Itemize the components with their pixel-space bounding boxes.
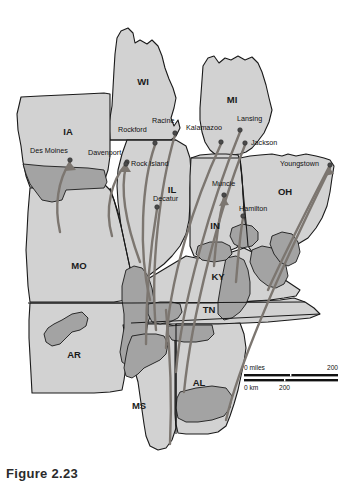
state-label-mo: MO <box>71 260 86 271</box>
city-label-rock-island: Rock Island <box>131 159 169 168</box>
state-label-in: IN <box>210 220 220 231</box>
city-label-rockford: Rockford <box>118 125 147 134</box>
city-dot-rockford <box>153 141 158 146</box>
city-dot-racine <box>173 131 178 136</box>
city-dot-rock-island <box>124 162 129 167</box>
city-dot-decatur <box>155 205 160 210</box>
state-label-al: AL <box>193 377 206 388</box>
city-dot-kalamazoo <box>219 140 224 145</box>
state-label-ky: KY <box>211 271 225 282</box>
city-label-hamilton: Hamilton <box>239 204 267 213</box>
city-label-racine: Racine <box>152 116 174 125</box>
city-dot-youngstown <box>328 163 333 168</box>
state-label-tn: TN <box>203 304 216 315</box>
city-dot-muncie <box>222 193 227 198</box>
city-dot-des-moines <box>68 158 73 163</box>
city-label-youngstown: Youngstown <box>280 159 319 168</box>
city-dot-lansing <box>238 128 243 133</box>
city-label-lansing: Lansing <box>237 114 262 123</box>
migration-flow-map-figure: Des MoinesDavenportRock IslandRockfordRa… <box>0 0 345 481</box>
city-dot-jackson <box>243 141 248 146</box>
state-label-il: IL <box>168 184 177 195</box>
city-label-jackson: Jackson <box>251 138 277 147</box>
scale-bar-km-max: 200 <box>279 384 290 391</box>
map-svg: Des MoinesDavenportRock IslandRockfordRa… <box>0 0 345 481</box>
city-label-decatur: Decatur <box>153 194 179 203</box>
scale-bar-miles-max: 200 <box>327 364 338 371</box>
state-label-ar: AR <box>67 349 81 360</box>
city-label-muncie: Muncie <box>212 179 235 188</box>
figure-caption: Figure 2.23 <box>6 466 78 481</box>
scale-bar-km-rule <box>244 379 338 381</box>
state-label-ms: MS <box>132 400 146 411</box>
highlight-region-hamilton-area <box>230 224 258 248</box>
state-label-ia: IA <box>63 126 73 137</box>
city-label-des-moines: Des Moines <box>30 146 68 155</box>
scale-bar-km-label: 0 km <box>244 384 259 391</box>
state-label-oh: OH <box>278 186 292 197</box>
state-label-mi: MI <box>227 94 238 105</box>
city-dot-hamilton <box>241 214 246 219</box>
scale-bar-km-tick <box>284 379 285 381</box>
city-label-kalamazoo: Kalamazoo <box>186 123 222 132</box>
city-label-davenport: Davenport <box>88 148 121 157</box>
scale-bar-miles-label: 0 miles <box>244 364 266 371</box>
scale-bar-miles-tick <box>290 374 291 376</box>
state-label-wi: WI <box>137 76 149 87</box>
